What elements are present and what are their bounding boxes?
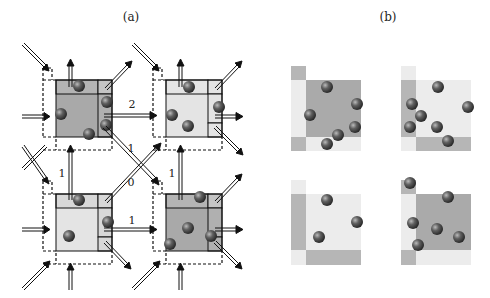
particle — [83, 128, 95, 140]
panel-a-label: (a) — [123, 10, 140, 24]
particle — [313, 231, 325, 243]
particle — [351, 216, 363, 228]
particle — [213, 101, 225, 113]
cell-a-top-right — [153, 68, 225, 150]
cell-b-top-left — [291, 66, 363, 151]
particle — [412, 239, 424, 251]
particle — [462, 101, 474, 113]
particle — [321, 81, 333, 93]
cell-b-bottom-right — [401, 177, 471, 265]
particle — [406, 98, 418, 110]
diagram: (a) (b) — [0, 0, 490, 298]
flow-label-center: 0 — [128, 176, 135, 189]
particle — [349, 121, 361, 133]
particle — [404, 121, 416, 133]
particle — [164, 238, 176, 250]
flow-label-right-vertical: 1 — [169, 167, 176, 180]
flow-label-left-vertical: 1 — [59, 167, 66, 180]
panel-b-label: (b) — [379, 10, 396, 24]
particle — [415, 110, 427, 122]
particle — [351, 98, 363, 110]
flow-label-bottom: 1 — [129, 214, 136, 227]
particle — [102, 216, 114, 228]
particle — [432, 81, 444, 93]
particle — [73, 194, 85, 206]
particle — [407, 217, 419, 229]
particle — [182, 222, 194, 234]
cell-b-bottom-left — [291, 180, 363, 265]
particle — [205, 230, 217, 242]
cell-a-top-left — [43, 68, 113, 150]
particle — [304, 109, 316, 121]
cell-b-top-right — [401, 66, 474, 151]
particle — [442, 135, 454, 147]
particle — [73, 80, 85, 92]
particle — [183, 81, 195, 93]
cell-a-bottom-right — [153, 181, 222, 264]
particle — [63, 230, 75, 242]
particle — [166, 109, 178, 121]
flow-label-2: 2 — [129, 98, 136, 111]
particle — [100, 119, 112, 131]
particle — [321, 138, 333, 150]
particle — [404, 177, 416, 189]
cell-a-bottom-left — [43, 181, 114, 264]
particle — [55, 108, 67, 120]
particle — [101, 96, 113, 108]
particle — [194, 191, 206, 203]
flow-label-diag: 1 — [128, 142, 135, 155]
particle — [442, 191, 454, 203]
particle — [431, 121, 443, 133]
particle — [321, 194, 333, 206]
particle — [182, 120, 194, 132]
particle — [453, 231, 465, 243]
particle — [431, 223, 443, 235]
particle — [332, 129, 344, 141]
